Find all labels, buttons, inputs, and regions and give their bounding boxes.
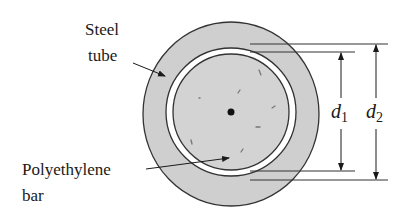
polyethylene-bar-label-line2: bar [22, 186, 44, 206]
d2-subscript: 2 [376, 110, 383, 125]
d1-label: d1 [330, 100, 349, 129]
polyethylene-bar-label-line1: Polyethylene [22, 160, 111, 180]
center-dot [228, 109, 235, 116]
tube-cross-section-diagram: Steel tube Polyethylene bar d1 d2 [0, 0, 403, 217]
d1-symbol: d [331, 100, 341, 122]
steel-tube-label-line2: tube [88, 46, 117, 66]
d2-symbol: d [366, 100, 376, 122]
steel-tube-label-line1: Steel [85, 20, 119, 40]
d1-subscript: 1 [341, 110, 348, 125]
d2-label: d2 [365, 100, 384, 129]
